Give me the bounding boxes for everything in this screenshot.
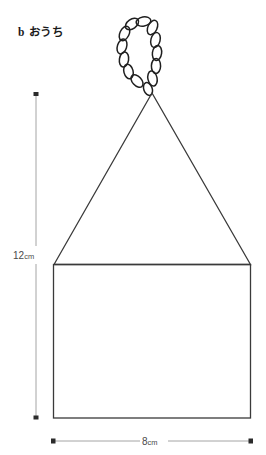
chain-stitch-icon: [122, 63, 135, 80]
chain-loop-hanger: [115, 16, 162, 97]
house-diagram-svg: 12cm 8cm: [0, 0, 266, 455]
dimension-tick-right: [249, 439, 254, 444]
dimension-width-unit: cm: [148, 438, 158, 447]
chain-stitch-icon: [146, 70, 158, 87]
diagram-root: bおうち: [0, 0, 266, 455]
dimension-height-value: 12: [13, 250, 25, 261]
dimension-width-label: 8cm: [142, 436, 158, 447]
square-body: [54, 265, 251, 419]
dimension-tick-top: [34, 92, 39, 96]
dimension-height: 12cm: [12, 92, 48, 420]
dimension-height-unit: cm: [24, 252, 34, 261]
dimension-height-label: 12cm: [13, 250, 34, 261]
house-outline: [54, 93, 251, 418]
dimension-tick-bottom: [34, 416, 39, 420]
triangle-roof: [54, 93, 251, 265]
dimension-width: 8cm: [51, 432, 253, 449]
chain-stitch-icon: [135, 16, 151, 28]
chain-stitch-icon: [145, 19, 160, 37]
dimension-tick-left: [51, 439, 56, 444]
